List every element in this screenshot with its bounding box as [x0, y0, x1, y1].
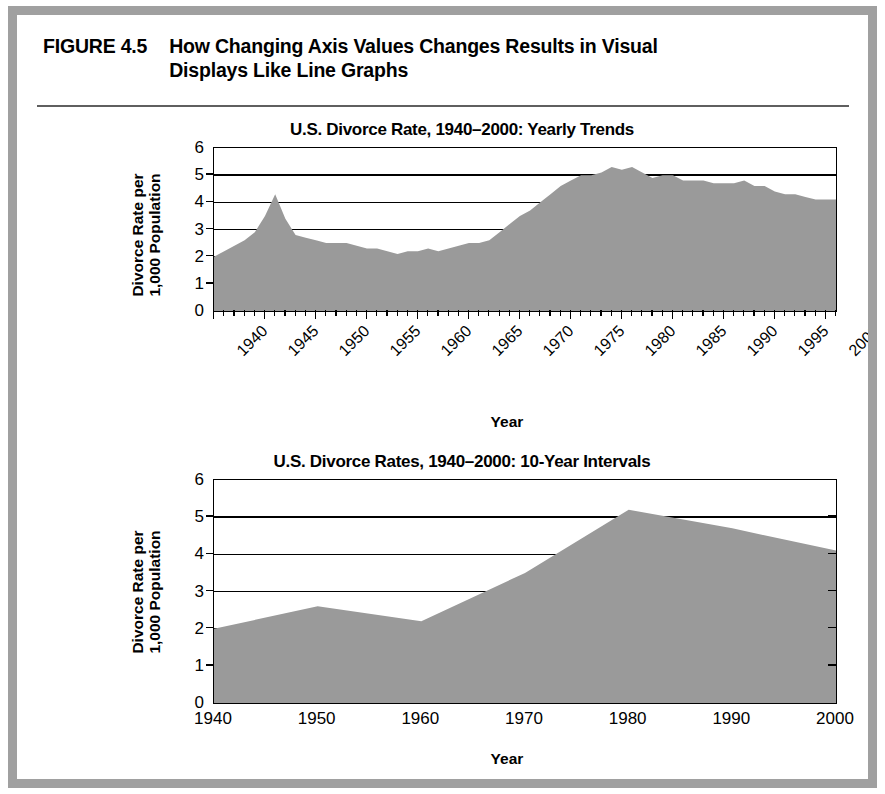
chart2-title: U.S. Divorce Rates, 1940–2000: 10-Year I…: [77, 452, 847, 472]
x-tick-mark: [723, 310, 724, 319]
x-tick-mark-minor: [713, 310, 714, 316]
x-tick-label: 1980: [609, 709, 647, 729]
x-tick-mark-minor: [305, 310, 306, 316]
figure-title: How Changing Axis Values Changes Results…: [169, 35, 657, 83]
x-tick-mark-minor: [631, 310, 632, 316]
chart2-plot-area: [213, 479, 837, 704]
x-tick-mark-minor: [356, 310, 357, 316]
x-tick-mark-minor: [804, 310, 805, 316]
x-tick-mark: [315, 310, 316, 319]
x-tick-mark: [468, 310, 469, 319]
x-tick-mark-minor: [284, 310, 285, 316]
x-tick-mark-minor: [509, 310, 510, 316]
y-tick-mark-right: [828, 590, 836, 592]
chart2-y-axis-label: Divorce Rate per 1,000 Population: [129, 477, 164, 707]
x-tick-mark-minor: [539, 310, 540, 316]
x-tick-mark-minor: [233, 310, 234, 316]
x-tick-mark-minor: [764, 310, 765, 316]
x-tick-mark: [213, 310, 214, 319]
x-tick-label: 1965: [488, 322, 526, 360]
figure-title-row: FIGURE 4.5 How Changing Axis Values Chan…: [43, 35, 833, 83]
x-tick-mark-minor: [458, 310, 459, 316]
y-tick-label: 0: [164, 302, 204, 319]
x-tick-mark-minor: [794, 310, 795, 316]
x-tick-label: 1950: [335, 322, 373, 360]
x-tick-mark-minor: [437, 310, 438, 316]
x-tick-mark-minor: [386, 310, 387, 316]
x-tick-mark: [417, 310, 418, 319]
chart2-area-series: [214, 480, 836, 703]
y-tick-mark-right: [828, 515, 836, 517]
x-tick-mark-minor: [254, 310, 255, 316]
x-tick-label: 1990: [712, 709, 750, 729]
x-tick-mark-minor: [651, 310, 652, 316]
x-tick-mark-minor: [600, 310, 601, 316]
y-tick-label: 5: [164, 166, 204, 183]
figure-panel: FIGURE 4.5 How Changing Axis Values Chan…: [17, 15, 868, 779]
x-tick-mark-minor: [815, 310, 816, 316]
chart2-y-axis-label-line-2: 1,000 Population: [146, 477, 163, 707]
x-tick-mark-minor: [560, 310, 561, 316]
chart-yearly-trends: U.S. Divorce Rate, 1940–2000: Yearly Tre…: [17, 120, 868, 440]
x-tick-mark: [672, 310, 673, 319]
y-tick-label: 3: [164, 220, 204, 237]
x-tick-mark-minor: [274, 310, 275, 316]
x-tick-mark-minor: [407, 310, 408, 316]
x-tick-mark-minor: [641, 310, 642, 316]
y-tick-mark-right: [828, 664, 836, 666]
x-tick-mark: [621, 310, 622, 319]
figure-title-line-1: How Changing Axis Values Changes Results…: [169, 35, 657, 59]
x-tick-mark-minor: [753, 310, 754, 316]
x-tick-mark-minor: [662, 310, 663, 316]
x-tick-mark-minor: [427, 310, 428, 316]
x-tick-label: 1995: [794, 322, 832, 360]
chart2-y-axis-label-line-1: Divorce Rate per: [129, 477, 146, 707]
chart1-area-series: [214, 148, 836, 311]
x-tick-label: 1980: [641, 322, 679, 360]
x-tick-mark-minor: [784, 310, 785, 316]
chart1-y-axis-label-line-1: Divorce Rate per: [129, 145, 146, 325]
x-tick-mark: [825, 310, 826, 319]
x-tick-label: 1960: [437, 322, 475, 360]
x-tick-mark: [366, 310, 367, 319]
y-tick-label: 5: [164, 508, 204, 525]
x-tick-mark: [264, 310, 265, 319]
x-tick-mark-minor: [346, 310, 347, 316]
x-tick-mark-minor: [590, 310, 591, 316]
x-tick-mark-minor: [580, 310, 581, 316]
x-tick-mark-minor: [835, 310, 836, 316]
y-tick-label: 6: [164, 471, 204, 488]
y-tick-label: 1: [164, 274, 204, 291]
x-tick-label: 1985: [692, 322, 730, 360]
x-tick-mark-minor: [733, 310, 734, 316]
x-tick-mark-minor: [499, 310, 500, 316]
y-tick-label: 6: [164, 139, 204, 156]
y-tick-label: 4: [164, 193, 204, 210]
x-tick-label: 1975: [590, 322, 628, 360]
x-tick-mark-minor: [223, 310, 224, 316]
y-tick-label: 2: [164, 247, 204, 264]
x-tick-label: 1940: [194, 709, 232, 729]
x-tick-label: 1970: [539, 322, 577, 360]
x-tick-mark-minor: [549, 310, 550, 316]
figure-frame: FIGURE 4.5 How Changing Axis Values Chan…: [8, 6, 877, 788]
y-tick-label: 4: [164, 545, 204, 562]
x-tick-label: 2000: [816, 709, 854, 729]
x-tick-label: 1955: [386, 322, 424, 360]
chart1-y-axis-label: Divorce Rate per 1,000 Population: [129, 145, 164, 325]
x-tick-label: 1990: [743, 322, 781, 360]
x-tick-mark-minor: [448, 310, 449, 316]
y-tick-mark-right: [828, 627, 836, 629]
chart1-x-axis-label: Year: [207, 413, 807, 431]
x-tick-label: 2000: [845, 322, 868, 360]
figure-number-label: FIGURE 4.5: [43, 35, 147, 58]
chart1-y-axis-label-line-2: 1,000 Population: [146, 145, 163, 325]
x-tick-mark-minor: [611, 310, 612, 316]
x-tick-mark-minor: [397, 310, 398, 316]
x-tick-mark-minor: [376, 310, 377, 316]
x-tick-mark: [519, 310, 520, 319]
y-tick-label: 2: [164, 619, 204, 636]
x-tick-mark-minor: [702, 310, 703, 316]
y-tick-label: 0: [164, 694, 204, 711]
x-tick-mark-minor: [244, 310, 245, 316]
